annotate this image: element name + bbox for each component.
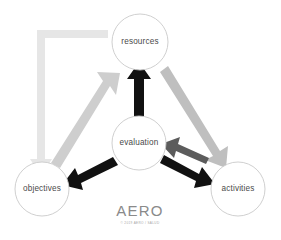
- node-objectives[interactable]: objectives: [15, 162, 69, 216]
- node-label-objectives: objectives: [23, 184, 61, 193]
- node-evaluation[interactable]: evaluation: [112, 116, 166, 170]
- diagram-canvas: resources evaluation objectives activiti…: [0, 0, 281, 240]
- aero-cycle-diagram: resources evaluation objectives activiti…: [0, 0, 281, 240]
- arrow-objectives-to-resources: [51, 72, 120, 168]
- brand-subtitle: © 2019 AERO / SALUD: [120, 221, 159, 225]
- node-label-resources: resources: [121, 37, 158, 46]
- node-label-evaluation: evaluation: [120, 138, 159, 147]
- node-label-activities: activities: [222, 184, 255, 193]
- node-activities[interactable]: activities: [211, 162, 265, 216]
- arrow-evaluation-to-objectives: [62, 157, 118, 190]
- node-resources[interactable]: resources: [112, 14, 168, 70]
- brand-title: AERO: [116, 202, 163, 219]
